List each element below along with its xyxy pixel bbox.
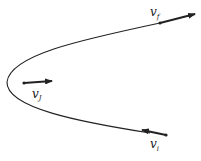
velocity-vector-vj bbox=[22, 81, 52, 85]
trajectory-diagram: vf vJ vi bbox=[0, 0, 201, 161]
vj-label: vJ bbox=[32, 87, 43, 102]
trajectory-curve bbox=[7, 23, 160, 133]
velocity-vector-vf bbox=[158, 14, 195, 25]
vj-arrow-icon bbox=[24, 81, 52, 83]
vi-label: vi bbox=[150, 137, 159, 153]
vf-arrow-icon bbox=[160, 14, 195, 23]
velocity-vector-vi bbox=[142, 130, 168, 137]
vf-label: vf bbox=[150, 5, 161, 21]
